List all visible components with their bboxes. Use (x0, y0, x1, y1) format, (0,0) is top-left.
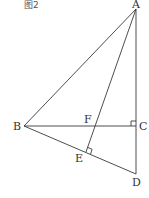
label-b: B (13, 120, 21, 133)
segment-ab (24, 9, 136, 126)
label-c: C (139, 120, 147, 133)
label-d: D (132, 176, 141, 189)
segment-ae (86, 9, 136, 152)
figure-caption: 图2 (24, 0, 39, 10)
label-f: F (84, 113, 92, 126)
label-a: A (131, 0, 141, 11)
geometry-diagram: 图2 A B C D E F (0, 0, 149, 198)
right-angle-mark-c (131, 121, 136, 126)
label-e: E (75, 152, 83, 165)
segment-bd (24, 126, 136, 174)
